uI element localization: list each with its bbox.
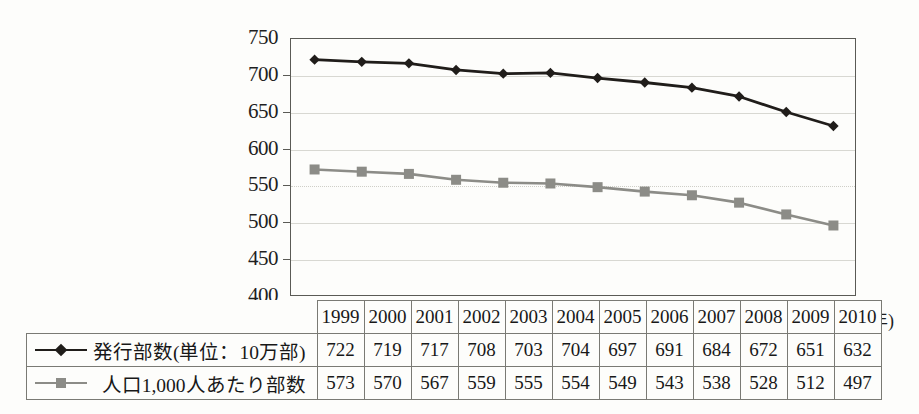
table-value-cell: 703 [505, 334, 552, 367]
table-value-cell: 549 [599, 367, 646, 400]
table-value-cell: 708 [458, 334, 505, 367]
legend-label-text: 発行部数(単位：10万部) [93, 336, 308, 365]
data-point-marker [404, 58, 414, 68]
square-marker-icon [33, 375, 89, 391]
series-group [310, 164, 839, 230]
series-line [315, 169, 834, 225]
data-point-marker [593, 182, 603, 192]
table-year-header-cell: 2003 [505, 301, 552, 334]
table-value-cell: 573 [317, 367, 364, 400]
table-value-cell: 632 [834, 334, 881, 367]
table-value-cell: 672 [740, 334, 787, 367]
data-table: 1999200020012002200320042005200620072008… [26, 300, 882, 400]
data-point-marker [781, 107, 791, 117]
table-value-cell: 704 [552, 334, 599, 367]
table-value-cell: 555 [505, 367, 552, 400]
chart-figure: 750700650600550500450400 (年) 19992000200… [0, 0, 919, 414]
table-year-header-cell: 2007 [693, 301, 740, 334]
data-point-marker [451, 65, 461, 75]
y-axis-tick-label: 650 [222, 101, 278, 122]
table-year-header-cell: 2009 [787, 301, 834, 334]
data-point-marker [498, 68, 508, 78]
data-point-marker [357, 167, 367, 177]
y-axis-tick-label: 550 [222, 174, 278, 195]
data-point-marker [404, 169, 414, 179]
data-point-marker [592, 73, 602, 83]
data-point-marker [781, 209, 791, 219]
table-year-header-cell: 2010 [834, 301, 881, 334]
y-axis-tick-label: 750 [222, 27, 278, 48]
table-value-cell: 554 [552, 367, 599, 400]
y-axis-tick-label: 500 [222, 211, 278, 232]
data-point-marker [687, 82, 697, 92]
table-value-cell: 697 [599, 334, 646, 367]
table-value-cell: 543 [646, 367, 693, 400]
legend-label-cell: 人口1,000人あたり部数 [27, 367, 318, 400]
table-value-cell: 528 [740, 367, 787, 400]
data-point-marker [687, 190, 697, 200]
table-value-cell: 497 [834, 367, 881, 400]
table-value-cell: 570 [364, 367, 411, 400]
table-year-header-cell: 2005 [599, 301, 646, 334]
table-year-header-cell: 2002 [458, 301, 505, 334]
table-value-cell: 567 [411, 367, 458, 400]
table-year-header-cell: 2006 [646, 301, 693, 334]
table-corner-cell [27, 301, 318, 334]
series-group [309, 54, 838, 131]
legend-label-cell: 発行部数(単位：10万部) [27, 334, 318, 367]
data-point-marker [545, 68, 555, 78]
data-point-marker [734, 198, 744, 208]
table-value-cell: 538 [693, 367, 740, 400]
table-value-cell: 559 [458, 367, 505, 400]
table-row: 発行部数(単位：10万部)722719717708703704697691684… [27, 334, 882, 367]
table-value-cell: 512 [787, 367, 834, 400]
data-point-marker [309, 54, 319, 64]
table-value-cell: 722 [317, 334, 364, 367]
table-value-cell: 691 [646, 334, 693, 367]
table-year-header-cell: 2008 [740, 301, 787, 334]
y-axis-tick-label: 600 [222, 138, 278, 159]
table-row-years: 1999200020012002200320042005200620072008… [27, 301, 882, 334]
data-point-marker [828, 121, 838, 131]
data-point-marker [640, 77, 650, 87]
table-row: 人口1,000人あたり部数573570567559555554549543538… [27, 367, 882, 400]
table-value-cell: 719 [364, 334, 411, 367]
legend-label-text: 人口1,000人あたり部数 [93, 369, 308, 398]
data-point-marker [545, 178, 555, 188]
table-value-cell: 717 [411, 334, 458, 367]
table-year-header-cell: 2004 [552, 301, 599, 334]
y-axis-tick-label: 450 [222, 248, 278, 269]
table-year-header-cell: 2001 [411, 301, 458, 334]
data-point-marker [640, 187, 650, 197]
diamond-marker-icon [33, 342, 89, 358]
data-point-marker [357, 57, 367, 67]
table-year-header-cell: 1999 [317, 301, 364, 334]
data-point-marker [498, 178, 508, 188]
table-value-cell: 651 [787, 334, 834, 367]
data-point-marker [734, 91, 744, 101]
table-value-cell: 684 [693, 334, 740, 367]
series-lines [291, 39, 857, 297]
data-point-marker [828, 220, 838, 230]
table-year-header-cell: 2000 [364, 301, 411, 334]
series-line [315, 60, 834, 126]
data-point-marker [451, 175, 461, 185]
y-axis-tick-label: 700 [222, 64, 278, 85]
plot-area [290, 38, 856, 296]
data-point-marker [310, 164, 320, 174]
